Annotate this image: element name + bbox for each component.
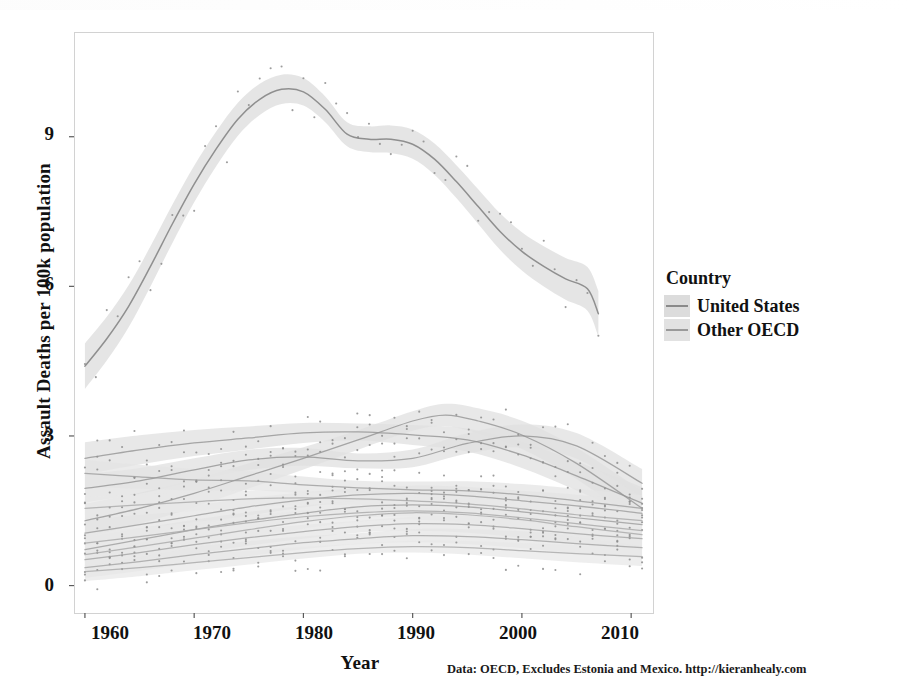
y-tick-label-6: 6 <box>8 273 54 295</box>
x-tick-label-1980: 1980 <box>274 622 354 644</box>
x-axis-title: Year <box>284 652 436 674</box>
x-tick-label-2000: 2000 <box>478 622 558 644</box>
legend-label-other-oecd: Other OECD <box>697 320 799 341</box>
legend-key-swatch-other-oecd <box>664 319 690 341</box>
legend-label-united-states: United States <box>697 296 800 317</box>
y-axis-title: Assault Deaths per 100k population <box>33 81 55 541</box>
chart-caption: Data: OECD, Excludes Estonia and Mexico.… <box>447 662 806 677</box>
x-tick-label-2010: 2010 <box>580 622 660 644</box>
y-tick-label-3: 3 <box>8 424 54 446</box>
legend: Country United States Other OECD <box>664 268 874 342</box>
legend-title: Country <box>666 268 874 289</box>
x-tick-label-1960: 1960 <box>70 622 150 644</box>
y-tick-label-0: 0 <box>8 574 54 596</box>
x-tick-label-1990: 1990 <box>376 622 456 644</box>
x-tick-label-1970: 1970 <box>172 622 252 644</box>
legend-item-united-states[interactable]: United States <box>664 294 874 318</box>
chart-figure: Assault Deaths per 100k population 9 6 3… <box>0 0 914 696</box>
legend-item-other-oecd[interactable]: Other OECD <box>664 318 874 342</box>
y-tick-label-9: 9 <box>8 123 54 145</box>
legend-key-swatch-united-states <box>664 295 690 317</box>
plot-panel <box>0 0 914 696</box>
